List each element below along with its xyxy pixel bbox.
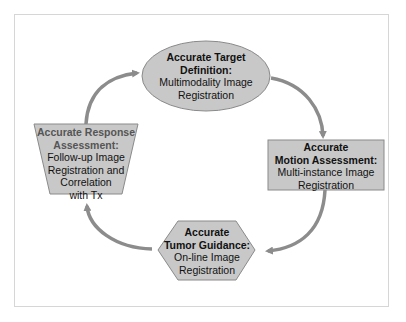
node-response-title1: Accurate Response <box>37 126 135 138</box>
arrow-target-to-motion <box>271 78 323 136</box>
node-target-title2: Definition: <box>180 64 232 76</box>
node-guidance-body1: On-line Image <box>174 251 240 263</box>
node-guidance-body2: Registration <box>179 264 235 276</box>
node-guidance-title1: Accurate <box>185 226 230 238</box>
node-motion-body1: Multi-instance Image <box>278 166 375 178</box>
node-motion-label: Accurate Motion Assessment: Multi-instan… <box>266 141 386 191</box>
arrow-guidance-to-response <box>87 206 152 249</box>
node-motion-title1: Accurate <box>304 141 349 153</box>
node-response-body4: with Tx <box>69 189 102 201</box>
node-motion-title2: Motion Assessment: <box>275 154 377 166</box>
node-target-body1: Multimodality Image <box>159 76 252 88</box>
node-response-body1: Follow-up Image <box>47 151 125 163</box>
node-guidance-label: Accurate Tumor Guidance: On-line Image R… <box>157 226 257 276</box>
node-response-title2: Assessment: <box>53 139 118 151</box>
node-target-body2: Registration <box>178 89 234 101</box>
node-target-label: Accurate Target Definition: Multimodalit… <box>142 51 270 101</box>
arrow-motion-to-guidance <box>268 190 325 251</box>
node-response-body2: Registration and <box>48 164 124 176</box>
arrow-response-to-target <box>86 73 137 124</box>
node-target-title1: Accurate Target <box>166 51 245 63</box>
node-guidance-title2: Tumor Guidance: <box>164 239 250 251</box>
node-response-label: Accurate Response Assessment: Follow-up … <box>30 126 142 201</box>
node-motion-body2: Registration <box>298 179 354 191</box>
node-response-body3: Correlation <box>60 176 111 188</box>
